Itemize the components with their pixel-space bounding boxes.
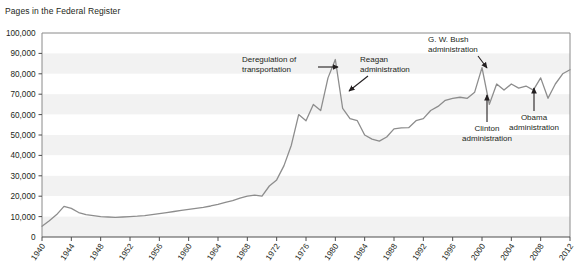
svg-text:transportation: transportation [242,65,291,74]
y-tick-label: 0 [31,233,36,242]
plot-area: 100,00090,00080,00070,00060,00050,00040,… [0,0,587,279]
x-tick-label: 1956 [147,242,165,262]
x-tick-label: 1976 [293,242,311,262]
x-tick-label: 1944 [59,242,77,262]
svg-text:Obama: Obama [521,113,548,122]
x-tick-label: 1960 [176,242,194,262]
x-tick-label: 2000 [469,242,487,262]
y-tick-label: 20,000 [10,192,35,201]
y-tick-label: 60,000 [10,111,35,120]
x-tick-label: 1996 [440,242,458,262]
band [42,155,570,175]
y-tick-label: 50,000 [10,131,35,140]
x-tick-label: 2008 [528,242,546,262]
band [42,94,570,114]
band [42,53,570,73]
x-tick-label: 1992 [411,242,429,262]
chart-figure: Pages in the Federal Register 100,00090,… [0,0,587,279]
x-tick-label: 1984 [352,242,370,262]
x-tick-label: 1948 [88,242,106,262]
y-axis: 100,00090,00080,00070,00060,00050,00040,… [6,29,42,242]
svg-text:administration: administration [462,134,512,143]
x-tick-label: 1952 [117,242,135,262]
band [42,196,570,216]
x-axis-labels: 1940194419481952195619601964196819721976… [29,237,575,262]
svg-text:administration: administration [428,45,478,54]
band [42,176,570,196]
svg-text:administration: administration [509,123,559,132]
y-tick-label: 10,000 [10,213,35,222]
y-tick-label: 80,000 [10,70,35,79]
svg-text:Deregulation of: Deregulation of [242,55,297,64]
y-tick-label: 40,000 [10,151,35,160]
y-tick-label: 100,000 [6,29,36,38]
annotation-deregulation: Deregulation oftransportation [242,55,297,74]
band [42,74,570,94]
x-tick-label: 1980 [323,242,341,262]
x-tick-label: 2012 [557,242,575,262]
svg-text:G. W. Bush: G. W. Bush [428,35,468,44]
y-tick-label: 90,000 [10,49,35,58]
x-tick-label: 1968 [235,242,253,262]
x-tick-label: 1964 [205,242,223,262]
band [42,33,570,53]
svg-text:Clinton: Clinton [475,124,500,133]
x-tick-label: 1988 [381,242,399,262]
band [42,217,570,237]
svg-text:Reagan: Reagan [360,55,388,64]
y-tick-label: 70,000 [10,90,35,99]
x-tick-label: 1940 [29,242,47,262]
x-tick-label: 1972 [264,242,282,262]
y-tick-label: 30,000 [10,172,35,181]
x-tick-label: 2004 [499,242,517,262]
svg-text:administration: administration [360,65,410,74]
